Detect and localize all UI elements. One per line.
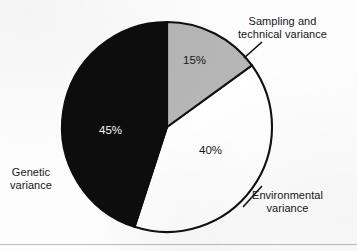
slice-label-sampling-line2: technical variance — [238, 28, 327, 41]
pie-chart-figure: 15% 40% 45% Sampling and technical varia… — [0, 0, 357, 251]
slice-label-genetic: Genetic variance — [10, 166, 52, 192]
bottom-divider-rule — [0, 244, 357, 245]
slice-percent-environmental: 40% — [199, 144, 222, 156]
slice-label-environmental-line2: variance — [252, 202, 323, 215]
slice-percent-sampling: 15% — [183, 54, 206, 66]
slice-label-sampling: Sampling and technical variance — [238, 15, 327, 41]
slice-label-environmental-line1: Environmental — [252, 189, 323, 202]
slice-label-sampling-line1: Sampling and — [238, 15, 327, 28]
slice-label-genetic-line2: variance — [10, 179, 52, 192]
slice-label-genetic-line1: Genetic — [10, 166, 52, 179]
slice-label-environmental: Environmental variance — [252, 189, 323, 215]
slice-percent-genetic: 45% — [99, 124, 122, 136]
leader-line-sampling — [244, 42, 262, 58]
